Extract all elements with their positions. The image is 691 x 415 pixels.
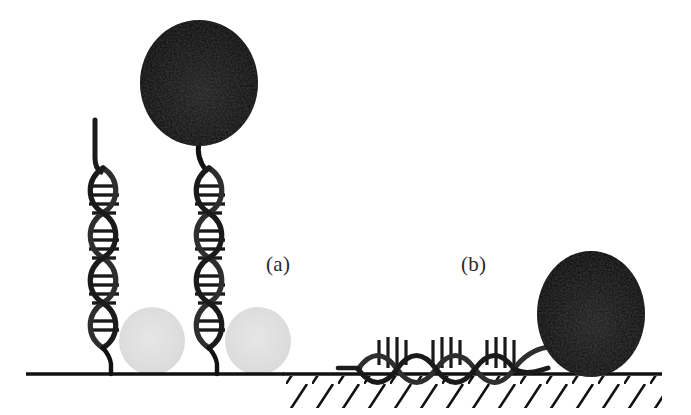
dna-bead-schematic [0,0,691,415]
panel-label-a: (a) [266,252,290,277]
substrate-hatching [283,376,662,408]
panel-label-b: (b) [461,252,486,277]
dna-helix-free [89,120,119,374]
panel-a-group [26,20,291,375]
figure-canvas: (a) (b) [0,0,691,415]
gray-bead-left [119,307,185,375]
gray-bead-right [225,307,291,375]
black-bead-adsorbed [537,251,645,377]
black-bead-suspended [140,20,258,146]
dna-helix-bead [195,142,225,374]
